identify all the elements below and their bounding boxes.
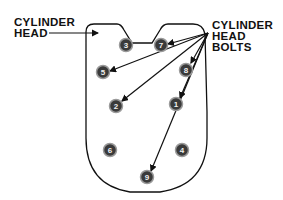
svg-text:4: 4 [180, 146, 185, 155]
bolt-3: 3 [120, 39, 133, 52]
bolt-4: 4 [176, 144, 189, 157]
svg-text:8: 8 [184, 66, 189, 75]
svg-text:5: 5 [101, 68, 106, 77]
svg-text:7: 7 [159, 41, 164, 50]
bolt-1: 1 [170, 98, 183, 111]
svg-text:9: 9 [145, 173, 150, 182]
cylinder-head-outline [86, 24, 207, 192]
svg-text:6: 6 [108, 146, 113, 155]
bolt-pointer-arrows [110, 33, 208, 171]
svg-text:1: 1 [174, 100, 179, 109]
bolt-6: 6 [104, 144, 117, 157]
cylinder-head-diagram: 3 7 5 8 2 1 6 4 9 [0, 0, 283, 200]
bolt-7: 7 [155, 39, 168, 52]
bolt-2: 2 [110, 100, 123, 113]
svg-text:2: 2 [114, 102, 119, 111]
bolt-8: 8 [180, 64, 193, 77]
bolt-9: 9 [141, 171, 154, 184]
svg-text:3: 3 [124, 41, 129, 50]
bolt-5: 5 [97, 66, 110, 79]
